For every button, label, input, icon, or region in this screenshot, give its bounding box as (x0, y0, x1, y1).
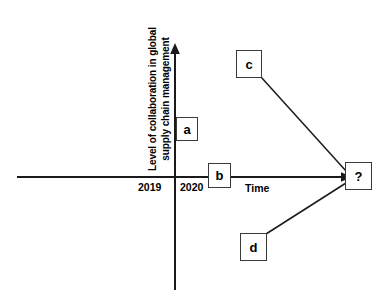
x-axis-tick-label-2020: 2020 (180, 181, 203, 193)
figure-canvas: Level of collaboration in global supply … (0, 0, 380, 304)
x-axis-tick-label-2019: 2019 (138, 181, 161, 193)
x-axis-label: Time (245, 182, 269, 194)
node-box-b[interactable]: b (208, 163, 231, 188)
y-axis-label: Level of collaboration in global supply … (145, 16, 173, 182)
node-box-d[interactable]: d (240, 233, 267, 261)
diagram-svg (0, 0, 380, 304)
node-box-a[interactable]: a (176, 117, 198, 141)
y-axis-label-line2: supply chain management (159, 37, 170, 160)
node-box-question[interactable]: ? (345, 162, 372, 190)
connector-c-to-question (261, 77, 346, 171)
connector-d-to-question (266, 183, 346, 234)
node-box-c[interactable]: c (236, 50, 262, 78)
y-axis-label-line1: Level of collaboration in global (147, 27, 158, 171)
